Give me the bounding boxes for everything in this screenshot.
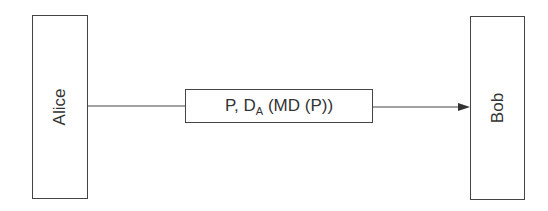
alice-label: Alice [50, 89, 70, 126]
message-prefix: P, D [225, 96, 256, 115]
arrowhead-icon [458, 103, 470, 111]
bob-box: Bob [470, 16, 525, 200]
message-label: P, DA (MD (P)) [225, 96, 333, 117]
bob-label: Bob [488, 93, 508, 123]
message-suffix: (MD (P)) [263, 96, 333, 115]
message-box: P, DA (MD (P)) [185, 89, 373, 123]
alice-box: Alice [32, 15, 88, 199]
